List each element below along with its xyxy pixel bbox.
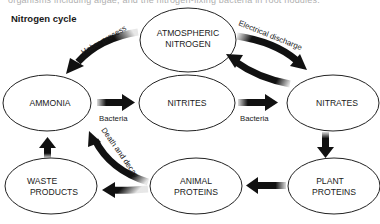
node-label: NITROGEN	[165, 39, 210, 49]
node-nitrites: NITRITES	[139, 75, 235, 131]
arrowhead-icon	[102, 182, 115, 198]
edge-label-bacteria-1: Bacteria	[99, 114, 128, 123]
node-ammonia: AMMONIA	[3, 75, 91, 131]
node-label: ANIMAL	[180, 176, 212, 186]
node-label: PROTEINS	[312, 187, 356, 197]
arrow-plant-to-animal	[246, 177, 286, 194]
node-waste-products: WASTE PRODUCTS	[5, 158, 97, 214]
node-label: WASTE	[27, 176, 58, 186]
node-label: PROTEINS	[174, 187, 218, 197]
arrow-nitrates-to-atmospheric	[226, 54, 290, 84]
arrowhead-icon	[317, 147, 334, 158]
arrow-nitrites-to-nitrates	[238, 94, 278, 111]
node-label: AMMONIA	[29, 98, 70, 108]
node-plant-proteins: PLANT PROTEINS	[288, 158, 380, 214]
arrow-animal-to-waste	[102, 182, 148, 198]
nitrogen-cycle-diagram: ATMOSPHERIC NITROGEN AMMONIA NITRITES NI…	[0, 0, 380, 224]
node-label: NITRATES	[316, 98, 358, 108]
node-label: ATMOSPHERIC	[157, 28, 219, 38]
arrowhead-icon	[246, 177, 258, 194]
arrowhead-icon	[122, 94, 135, 111]
node-nitrates: NITRATES	[287, 75, 379, 131]
node-atmospheric-nitrogen: ATMOSPHERIC NITROGEN	[140, 8, 236, 72]
arrow-nitrates-to-plant	[317, 132, 334, 158]
arrow-waste-to-ammonia	[39, 137, 56, 158]
node-animal-proteins: ANIMAL PROTEINS	[150, 158, 242, 214]
arrowhead-icon	[39, 137, 56, 148]
edge-label-bacteria-2: Bacteria	[240, 114, 269, 123]
node-label: PLANT	[316, 176, 344, 186]
arrow-ammonia-to-nitrites	[97, 94, 135, 111]
arrowhead-icon	[265, 94, 278, 111]
node-label: PRODUCTS	[30, 187, 78, 197]
node-label: NITRITES	[167, 98, 206, 108]
edge-label-haber: Haber process	[80, 24, 128, 57]
